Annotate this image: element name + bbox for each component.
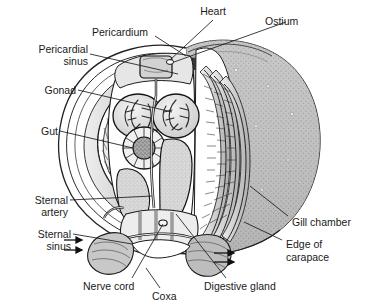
label-ostium: Ostium (265, 15, 298, 27)
sternal-sinus-cavity (132, 240, 190, 258)
label-gut: Gut (0, 125, 58, 137)
label-edge-of-carapace-line1: Edge of (286, 238, 322, 250)
figure-container: Heart Ostium Pericardium Pericardial sin… (0, 0, 368, 307)
label-digestive-gland: Digestive gland (204, 280, 276, 292)
label-heart: Heart (188, 5, 238, 17)
gut-organ (123, 127, 165, 169)
label-sternal-sinus-line1: Sternal (0, 228, 71, 240)
label-gonad: Gonad (0, 84, 76, 96)
label-edge-of-carapace-line2: carapace (286, 251, 329, 263)
nerve-cord-organ (159, 220, 167, 226)
label-pericardium: Pericardium (92, 26, 148, 38)
label-sternal-artery-line2: artery (0, 206, 68, 218)
label-gill-chamber: Gill chamber (292, 216, 351, 228)
label-sternal-sinus-line2: sinus (0, 240, 71, 252)
label-sternal-artery-line1: Sternal (0, 194, 68, 206)
label-coxa: Coxa (152, 290, 177, 302)
label-pericardial-sinus-line1: Pericardial (0, 43, 88, 55)
label-pericardial-sinus-line2: sinus (0, 55, 88, 67)
label-nerve-cord: Nerve cord (83, 280, 134, 292)
